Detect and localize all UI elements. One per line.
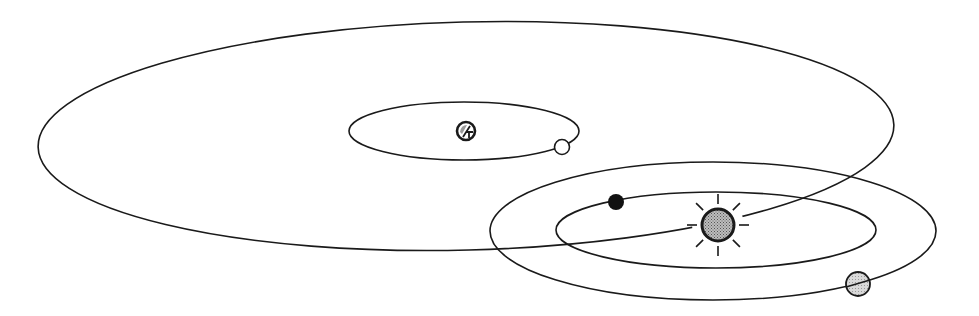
orbits-layer [35,11,936,300]
hatched-body-icon [457,122,475,140]
gray-planet-icon [846,272,870,296]
sun-icon [687,194,749,256]
diagram-canvas [0,0,979,316]
white-moon-icon [555,140,570,155]
bodies-layer [457,122,870,296]
orbital-diagram [0,0,979,316]
black-planet-icon [608,194,624,210]
sun-disc [702,209,734,241]
